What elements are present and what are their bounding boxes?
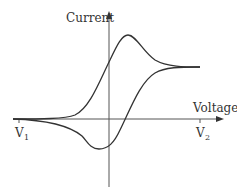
- forward-sweep-curve: [13, 35, 200, 119]
- v1-subscript: 1: [24, 133, 29, 142]
- v2-subscript: 2: [205, 133, 210, 142]
- x-axis-label: Voltage: [192, 101, 237, 115]
- y-axis-label: Current: [66, 11, 114, 25]
- cyclic-voltammogram-diagram: Current Voltage V 1 V 2: [0, 0, 237, 196]
- x-axis-arrow-icon: [216, 116, 224, 122]
- v2-label: V: [195, 126, 205, 140]
- reverse-sweep-curve: [13, 67, 200, 149]
- v1-label: V: [14, 126, 24, 140]
